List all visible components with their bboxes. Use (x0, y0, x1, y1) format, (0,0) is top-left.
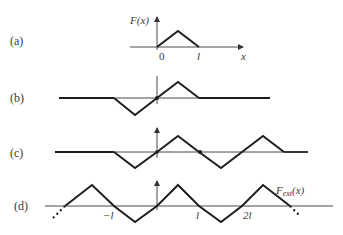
panel-label-b: (b) (10, 91, 24, 105)
periodic-extension (65, 185, 290, 222)
origin-dot (155, 150, 159, 154)
curve-label: Fext(x) (275, 184, 305, 198)
continuation-right (290, 206, 300, 216)
y-axis-label: F(x) (129, 14, 149, 27)
dot-at-l (198, 150, 202, 154)
tick-l: l (197, 50, 200, 62)
figure-extensions: (a) F(x) 0 l x (b) (c) (d) −l (0, 0, 343, 235)
function-F (157, 31, 199, 47)
panel-d: (d) −l l 2l Fext(x) (14, 181, 333, 222)
tick-0: 0 (159, 50, 165, 62)
origin-dot (155, 96, 159, 100)
panel-b: (b) (10, 76, 270, 115)
tick-2l: 2l (243, 209, 252, 221)
continuation-left (53, 206, 65, 218)
tick-minus-l: −l (103, 209, 113, 221)
panel-c: (c) (10, 128, 308, 168)
panel-a: (a) F(x) 0 l x (10, 14, 246, 62)
panel-label-a: (a) (10, 34, 23, 48)
panel-label-c: (c) (10, 146, 23, 160)
tick-l: l (196, 209, 199, 221)
x-axis-label: x (240, 50, 246, 62)
panel-label-d: (d) (14, 199, 28, 213)
